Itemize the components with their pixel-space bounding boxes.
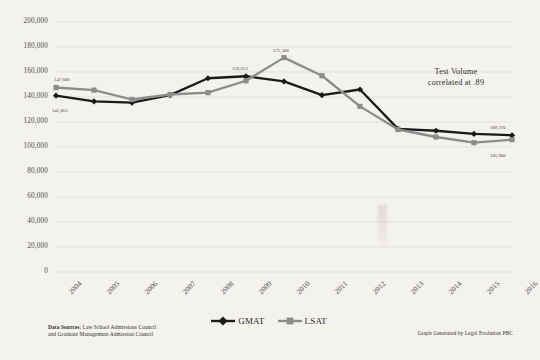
legend-marker-diamond-icon [210,316,236,326]
data-sources-line-1: Data Sources: Law School Admissions Coun… [48,324,156,331]
legend-label-gmat: GMAT [238,316,264,326]
y-axis-tick-label: 80,000 [4,167,48,175]
legend-item-lsat[interactable]: LSAT [277,316,327,326]
data-point-marker-lsat[interactable] [167,92,172,97]
data-point-marker-gmat[interactable] [471,131,477,137]
data-point-marker-lsat[interactable] [319,73,324,78]
data-sources-line-1-rest: : Law School Admissions Council [80,324,157,330]
annotation-line-1: Test Volume [398,66,514,77]
y-axis-tick-label: 0 [4,267,48,275]
data-point-label: 156,613 [232,66,248,71]
legend-item-gmat[interactable]: GMAT [210,316,264,326]
y-axis-tick-label: 140,000 [4,92,48,100]
y-axis-tick-label: 200,000 [4,17,48,25]
data-point-marker-gmat[interactable] [53,93,59,99]
scan-artifact [378,205,387,247]
data-point-label: 141,063 [52,108,68,113]
data-point-marker-lsat[interactable] [129,97,134,102]
data-point-marker-lsat[interactable] [433,134,438,139]
data-point-marker-lsat[interactable] [471,140,476,145]
legend-label-lsat: LSAT [305,316,327,326]
data-point-marker-gmat[interactable] [433,128,439,134]
y-axis-tick-label: 40,000 [4,217,48,225]
data-point-marker-lsat[interactable] [509,137,514,142]
graph-credit-footer: Graph Generated by Legal Evolution PBC [418,330,513,336]
y-axis-tick-label: 180,000 [4,42,48,50]
data-point-marker-gmat[interactable] [91,98,97,104]
data-point-marker-lsat[interactable] [357,104,362,109]
data-point-marker-gmat[interactable] [281,78,287,84]
data-sources-line-2: and Graduate Management Admission Counci… [48,331,156,338]
data-point-label: 109,370 [490,125,506,130]
y-axis-tick-label: 20,000 [4,242,48,250]
data-point-marker-lsat[interactable] [205,90,210,95]
y-axis-tick-label: 120,000 [4,117,48,125]
data-sources-footer: Data Sources: Law School Admissions Coun… [48,324,156,339]
annotation-line-2: correlated at .89 [398,77,514,88]
data-point-label: 147,600 [54,77,70,82]
data-sources-bold-label: Data Sources [48,324,80,330]
data-point-label: 171,500 [273,48,289,53]
y-axis-tick-label: 100,000 [4,142,48,150]
y-axis-tick-label: 60,000 [4,192,48,200]
legend-marker-square-icon [277,316,303,326]
data-point-marker-lsat[interactable] [243,78,248,83]
data-point-label: 105,900 [490,153,506,158]
y-axis-tick-label: 160,000 [4,67,48,75]
correlation-annotation: Test Volume correlated at .89 [398,66,514,88]
data-point-marker-lsat[interactable] [395,127,400,132]
data-point-marker-lsat[interactable] [281,55,286,60]
data-point-marker-lsat[interactable] [53,85,58,90]
data-point-marker-lsat[interactable] [91,88,96,93]
